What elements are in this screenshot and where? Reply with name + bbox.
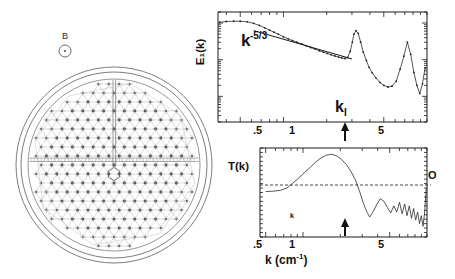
ki-arrow-label: kI — [335, 98, 347, 118]
x-axis-title: k (cm-1) — [265, 252, 307, 267]
x-tick-label-1: 1 — [289, 238, 295, 250]
energy-spectrum-svg — [190, 0, 455, 148]
y-axis-label-e1: E₁(k) — [194, 39, 206, 65]
spectrum-charts: E₁(k) k-5/3 kI .5 1 5 T(k) O — [190, 0, 455, 279]
x-tick-label-2: 5 — [378, 124, 384, 136]
energy-spectrum-panel: E₁(k) k-5/3 kI .5 1 5 — [190, 0, 455, 148]
magnetic-field-label: B — [62, 31, 69, 41]
ki-small-label: k — [290, 212, 294, 219]
power-law-annotation: k-5/3 — [241, 30, 267, 51]
x-tick-label-1: 1 — [289, 124, 295, 136]
zero-line-label: O — [428, 169, 437, 181]
ki-arrow — [341, 218, 349, 236]
x-tick-label-0: .5 — [253, 124, 262, 136]
x-tick-label-0: .5 — [253, 238, 262, 250]
x-tick-label-2: 5 — [378, 238, 384, 250]
figure-container: B E₁(k) k-5/3 kI — [0, 0, 455, 279]
y-axis-label-tk: T(k) — [228, 160, 249, 172]
transfer-function-panel: T(k) O k k (cm-1) .5 1 5 — [190, 138, 455, 279]
circle-dot-icon — [58, 44, 72, 58]
